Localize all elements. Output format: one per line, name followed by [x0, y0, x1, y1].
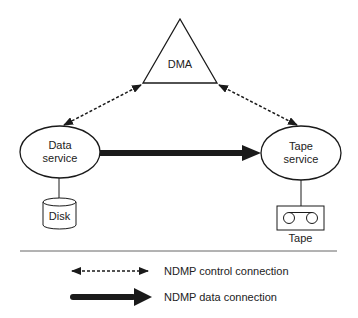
control-connection-left — [64, 85, 141, 125]
data-service-label-2: service — [43, 152, 78, 164]
tape-node: Tape — [277, 206, 324, 244]
disk-label: Disk — [49, 210, 71, 222]
data-service-label-1: Data — [48, 139, 72, 151]
control-connection-right — [219, 85, 297, 125]
legend-data: NDMP data connection — [70, 288, 277, 306]
legend-data-label: NDMP data connection — [164, 291, 277, 303]
tape-service-label-2: service — [284, 153, 319, 165]
ndmp-diagram: DMA Data service Tape service Disk Tape — [0, 0, 358, 318]
dma-label: DMA — [168, 58, 193, 70]
data-connection-arrow — [100, 145, 261, 161]
legend-control-label: NDMP control connection — [164, 265, 289, 277]
data-service-node: Data service — [20, 126, 100, 178]
disk-node: Disk — [43, 198, 76, 229]
tape-service-node: Tape service — [261, 126, 341, 180]
dma-node: DMA — [143, 19, 217, 83]
tape-label: Tape — [289, 232, 313, 244]
tape-service-label-1: Tape — [289, 140, 313, 152]
legend-control: NDMP control connection — [72, 265, 289, 277]
